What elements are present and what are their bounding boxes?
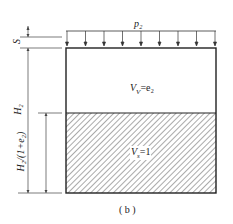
void-label: VV=e₂ (130, 82, 154, 96)
settlement-label: S (11, 39, 22, 44)
figure-caption: ( b ) (119, 204, 136, 215)
solid-height-label: H₂/(1+e₂) (15, 128, 26, 176)
load-label: p₂ (134, 18, 142, 29)
solid-label: Vs=1 (130, 146, 151, 160)
height-label: H₂ (12, 104, 23, 115)
soil-phase-diagram (0, 0, 233, 224)
load-arrows (66, 31, 217, 46)
